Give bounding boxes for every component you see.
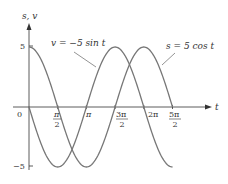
- x-tick-label-5pi-half-den: 2: [173, 120, 178, 129]
- x-tick-label-pi-half-num: π: [53, 110, 60, 119]
- v-label-leader: [74, 52, 96, 67]
- s-label-leader: [162, 53, 175, 65]
- y-tick-label-neg5: −5: [13, 162, 25, 171]
- s-curve-label: s = 5 cos t: [166, 41, 214, 51]
- x-tick-label-pi-half-den: 2: [55, 120, 60, 129]
- chart: s, v t 0 5 −5 π 2 π 3π 2 2π 5π 2 v = −5 …: [0, 0, 228, 184]
- v-curve-label: v = −5 sin t: [51, 38, 106, 48]
- x-tick-label-3pi-half-den: 2: [120, 120, 125, 129]
- y-axis-label: s, v: [22, 11, 37, 21]
- y-tick-label-5: 5: [20, 42, 25, 51]
- x-tick-label-3pi-half-num: 3π: [116, 110, 126, 119]
- x-axis-label: t: [215, 102, 219, 112]
- x-tick-label-pi: π: [85, 110, 92, 119]
- x-axis-arrow-icon: [205, 105, 212, 110]
- y-axis-arrow-icon: [27, 23, 32, 30]
- origin-label: 0: [17, 110, 22, 119]
- x-tick-label-5pi-half-num: 5π: [169, 110, 179, 119]
- x-tick-label-2pi: 2π: [148, 110, 158, 119]
